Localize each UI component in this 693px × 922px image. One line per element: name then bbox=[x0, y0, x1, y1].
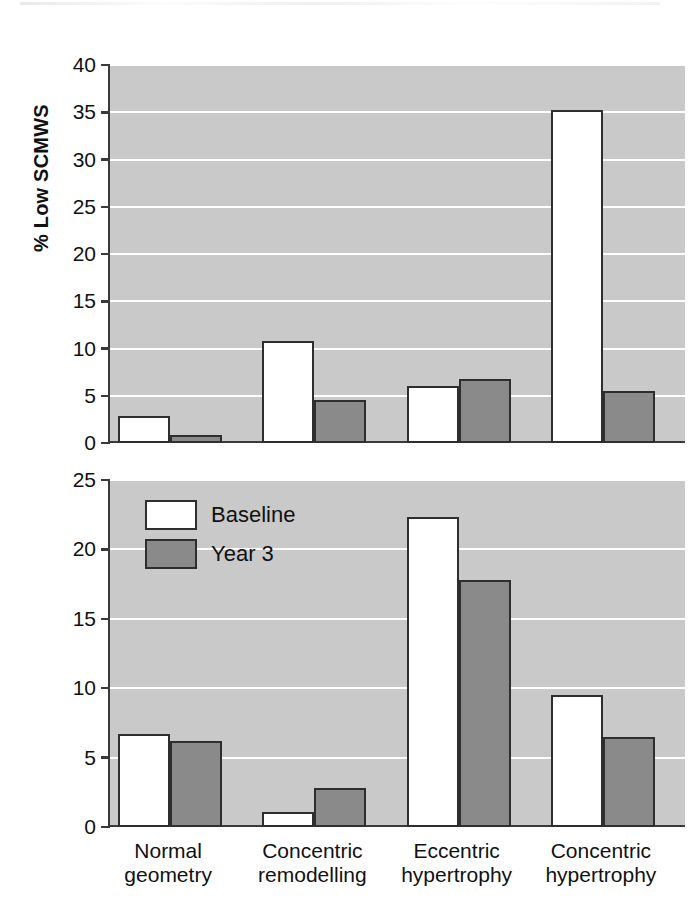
y-axis-tick-label: 40 bbox=[73, 53, 96, 77]
bar-scmws-year-3-1 bbox=[314, 400, 366, 443]
bar-scmws-baseline-2 bbox=[407, 386, 459, 443]
y-axis-tick-label: 5 bbox=[84, 384, 96, 408]
y-axis-tick-label: 25 bbox=[73, 468, 96, 492]
plot-area-scmws: 0510152025303540 bbox=[108, 65, 685, 443]
legend-label-year3: Year 3 bbox=[211, 541, 274, 567]
y-axis-tick bbox=[101, 618, 110, 621]
bar-fs-baseline-2 bbox=[407, 517, 459, 827]
legend: Baseline Year 3 bbox=[145, 497, 295, 575]
y-axis-tick bbox=[101, 756, 110, 759]
y-axis-tick bbox=[101, 548, 110, 551]
gridline bbox=[110, 64, 685, 66]
y-axis-tick-label: 20 bbox=[73, 242, 96, 266]
y-axis-tick bbox=[101, 442, 110, 445]
legend-label-baseline: Baseline bbox=[211, 502, 295, 528]
bar-fs-year-3-2 bbox=[459, 580, 511, 827]
bar-scmws-baseline-3 bbox=[551, 110, 603, 443]
y-axis-tick bbox=[101, 253, 110, 256]
bar-scmws-baseline-0 bbox=[118, 416, 170, 443]
y-axis-title-top: % Low SCMWS bbox=[30, 104, 53, 252]
legend-item-baseline: Baseline bbox=[145, 497, 295, 532]
y-axis-tick-label: 30 bbox=[73, 148, 96, 172]
figure-canvas: % Low SCMWS 0510152025303540 % Low FS 05… bbox=[0, 0, 693, 922]
bar-scmws-year-3-0 bbox=[170, 435, 222, 443]
y-axis-tick bbox=[101, 687, 110, 690]
y-axis-tick-label: 20 bbox=[73, 537, 96, 561]
y-axis-tick-label: 25 bbox=[73, 195, 96, 219]
gridline bbox=[110, 687, 685, 689]
legend-swatch-year3 bbox=[145, 539, 197, 569]
y-axis-tick bbox=[101, 111, 110, 114]
bar-fs-year-3-3 bbox=[603, 737, 655, 827]
y-axis-tick bbox=[101, 395, 110, 398]
y-axis-tick-label: 10 bbox=[73, 676, 96, 700]
gridline bbox=[110, 479, 685, 481]
bar-fs-baseline-1 bbox=[262, 812, 314, 827]
y-axis-tick bbox=[101, 826, 110, 829]
y-axis-tick bbox=[101, 158, 110, 161]
gridline bbox=[110, 618, 685, 620]
y-axis-tick bbox=[101, 300, 110, 303]
bar-fs-baseline-0 bbox=[118, 734, 170, 827]
bar-scmws-baseline-1 bbox=[262, 341, 314, 443]
y-axis-tick bbox=[101, 479, 110, 482]
bar-scmws-year-3-3 bbox=[603, 391, 655, 443]
y-axis-tick bbox=[101, 206, 110, 209]
scan-artifact bbox=[20, 2, 660, 5]
bar-fs-year-3-1 bbox=[314, 788, 366, 827]
y-axis-tick-label: 0 bbox=[84, 815, 96, 839]
y-axis-tick bbox=[101, 347, 110, 350]
y-axis-tick-label: 35 bbox=[73, 100, 96, 124]
y-axis-tick bbox=[101, 64, 110, 67]
bar-fs-year-3-0 bbox=[170, 741, 222, 827]
y-axis-tick-label: 15 bbox=[73, 607, 96, 631]
y-axis-tick-label: 5 bbox=[84, 746, 96, 770]
y-axis-tick-label: 10 bbox=[73, 337, 96, 361]
y-axis-tick-label: 15 bbox=[73, 289, 96, 313]
bar-scmws-year-3-2 bbox=[459, 379, 511, 443]
bar-fs-baseline-3 bbox=[551, 695, 603, 827]
legend-item-year3: Year 3 bbox=[145, 536, 295, 571]
y-axis-tick-label: 0 bbox=[84, 431, 96, 455]
x-axis-category-label-3: Concentric hypertrophy bbox=[514, 839, 688, 886]
legend-swatch-baseline bbox=[145, 500, 197, 530]
